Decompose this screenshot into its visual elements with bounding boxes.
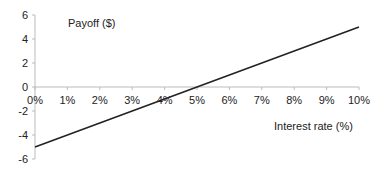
y-tick-label: 4 (22, 33, 28, 45)
y-tick-label: 0 (22, 81, 28, 93)
x-axis-label: Interest rate (%) (274, 120, 353, 132)
x-tick-label: 4% (157, 94, 173, 106)
x-tick-label: 2% (92, 94, 108, 106)
x-tick-label: 9% (319, 94, 335, 106)
x-tick-label: 0% (27, 94, 43, 106)
x-tick-label: 1% (59, 94, 75, 106)
y-tick-label: -6 (18, 153, 28, 165)
y-tick-label: 6 (22, 9, 28, 21)
x-tick-label: 8% (286, 94, 302, 106)
payoff-chart: 6420-2-4-60%1%2%3%4%5%6%7%8%9%10% Payoff… (0, 0, 387, 174)
y-tick-label: -2 (18, 105, 28, 117)
y-axis-label: Payoff ($) (68, 17, 116, 29)
x-tick-label: 3% (124, 94, 140, 106)
x-tick-label: 5% (189, 94, 205, 106)
y-tick-label: 2 (22, 57, 28, 69)
y-tick-label: -4 (18, 129, 28, 141)
x-tick-label: 7% (254, 94, 270, 106)
x-tick-label: 6% (221, 94, 237, 106)
x-tick-label: 10% (348, 94, 370, 106)
